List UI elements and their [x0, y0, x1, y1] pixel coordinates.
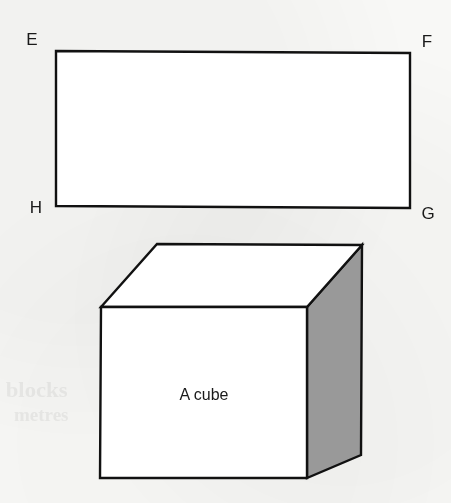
figure-canvas: E F G H A cube: [0, 0, 451, 503]
rectangle-outline: [56, 51, 410, 208]
cube-caption: A cube: [180, 386, 229, 403]
vertex-label-g: G: [421, 204, 434, 223]
rectangle-efgh: [56, 51, 410, 208]
vertex-label-h: H: [30, 198, 42, 217]
figure-root: blocks metres 8 E F G H A cube: [0, 0, 451, 503]
vertex-label-f: F: [422, 32, 432, 51]
vertex-label-e: E: [26, 30, 37, 49]
cube-diagram: [100, 244, 362, 478]
